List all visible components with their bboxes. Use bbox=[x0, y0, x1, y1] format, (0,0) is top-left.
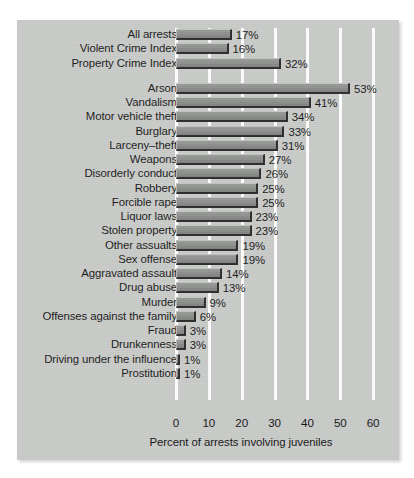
category-label: Vandalism bbox=[126, 96, 177, 110]
bar-value-label: 3% bbox=[190, 325, 206, 337]
bar-value-label: 9% bbox=[210, 297, 226, 309]
bar bbox=[176, 339, 186, 350]
bar-value-label: 41% bbox=[315, 97, 338, 109]
x-tick-label: 50 bbox=[334, 416, 347, 430]
bar-value-label: 32% bbox=[285, 58, 308, 70]
category-label: Liquor laws bbox=[120, 210, 177, 224]
bar-row: Murder9% bbox=[17, 296, 399, 310]
bar-row: Disorderly conduct26% bbox=[17, 167, 399, 181]
bar-row: Aggravated assault14% bbox=[17, 267, 399, 281]
bar bbox=[176, 111, 288, 122]
bar-row: Fraud3% bbox=[17, 324, 399, 338]
category-label: Drunkenness bbox=[111, 338, 177, 352]
bar-value-label: 1% bbox=[184, 368, 200, 380]
bar-value-label: 14% bbox=[226, 268, 249, 280]
bar-row: All arrests17% bbox=[17, 28, 399, 42]
bar-row: Vandalism41% bbox=[17, 96, 399, 110]
bar-value-label: 31% bbox=[282, 140, 305, 152]
x-tick-label: 20 bbox=[235, 416, 248, 430]
bar-value-label: 27% bbox=[269, 154, 292, 166]
bar-row: Stolen property23% bbox=[17, 224, 399, 238]
bar-row: Forcible rape25% bbox=[17, 196, 399, 210]
bar bbox=[176, 197, 258, 208]
category-label: Murder bbox=[142, 296, 177, 310]
bar-row: Burglary33% bbox=[17, 125, 399, 139]
category-label: Prostitution bbox=[121, 367, 177, 381]
category-label: Weapons bbox=[130, 153, 177, 167]
bar-value-label: 19% bbox=[242, 254, 265, 266]
bar bbox=[176, 43, 229, 54]
bar-value-label: 26% bbox=[265, 168, 288, 180]
bar-value-label: 53% bbox=[354, 83, 377, 95]
chart-panel: All arrests17%Violent Crime Index16%Prop… bbox=[17, 20, 399, 460]
bar bbox=[176, 154, 265, 165]
bar bbox=[176, 297, 206, 308]
bar-value-label: 34% bbox=[292, 111, 315, 123]
category-label: Offenses against the family bbox=[43, 310, 177, 324]
x-tick-label: 30 bbox=[268, 416, 281, 430]
bar bbox=[176, 58, 281, 69]
bar-value-label: 19% bbox=[242, 240, 265, 252]
bar-value-label: 25% bbox=[262, 197, 285, 209]
category-label: Other assualts bbox=[105, 239, 177, 253]
category-label: Stolen property bbox=[101, 224, 177, 238]
category-label: Larceny–theft bbox=[109, 139, 177, 153]
x-tick-label: 60 bbox=[367, 416, 380, 430]
category-label: Burglary bbox=[135, 125, 177, 139]
bar bbox=[176, 354, 180, 365]
bar-value-label: 23% bbox=[256, 225, 279, 237]
bar bbox=[176, 183, 258, 194]
bar-value-label: 13% bbox=[223, 282, 246, 294]
bar bbox=[176, 268, 222, 279]
category-label: Motor vehicle theft bbox=[86, 110, 177, 124]
bar-row: Motor vehicle theft34% bbox=[17, 110, 399, 124]
x-axis: 0102030405060 bbox=[17, 416, 399, 432]
bar bbox=[176, 97, 311, 108]
bar bbox=[176, 325, 186, 336]
bar-row: Weapons27% bbox=[17, 153, 399, 167]
x-tick-label: 40 bbox=[301, 416, 314, 430]
bar bbox=[176, 311, 196, 322]
category-label: Arson bbox=[148, 82, 177, 96]
bar bbox=[176, 254, 238, 265]
bar bbox=[176, 282, 219, 293]
bar-row: Sex offense19% bbox=[17, 253, 399, 267]
bar-value-label: 6% bbox=[200, 311, 216, 323]
bar-row: Liquor laws23% bbox=[17, 210, 399, 224]
bar-value-label: 1% bbox=[184, 354, 200, 366]
category-label: Drug abuse bbox=[119, 281, 177, 295]
bar-row: Driving under the influence1% bbox=[17, 353, 399, 367]
bar bbox=[176, 211, 252, 222]
bar bbox=[176, 83, 350, 94]
bar-row: Drug abuse13% bbox=[17, 281, 399, 295]
x-axis-label: Percent of arrests involving juveniles bbox=[17, 436, 399, 448]
bar-value-label: 33% bbox=[288, 126, 311, 138]
bar-row: Offenses against the family6% bbox=[17, 310, 399, 324]
bar bbox=[176, 168, 261, 179]
bar-value-label: 25% bbox=[262, 183, 285, 195]
bar-row: Robbery25% bbox=[17, 182, 399, 196]
category-label: Sex offense bbox=[118, 253, 177, 267]
bar bbox=[176, 140, 278, 151]
bar-value-label: 3% bbox=[190, 339, 206, 351]
category-label: Property Crime Index bbox=[71, 57, 177, 71]
category-label: All arrests bbox=[127, 28, 177, 42]
x-tick-label: 10 bbox=[202, 416, 215, 430]
bar-row: Prostitution1% bbox=[17, 367, 399, 381]
bar-value-label: 16% bbox=[233, 43, 256, 55]
bar-row: Other assualts19% bbox=[17, 239, 399, 253]
bar bbox=[176, 368, 180, 379]
category-label: Aggravated assault bbox=[81, 267, 177, 281]
category-label: Disorderly conduct bbox=[84, 167, 177, 181]
x-tick-label: 0 bbox=[173, 416, 179, 430]
bar bbox=[176, 225, 252, 236]
bar-row: Drunkenness3% bbox=[17, 338, 399, 352]
figure: All arrests17%Violent Crime Index16%Prop… bbox=[0, 0, 414, 478]
category-label: Robbery bbox=[135, 182, 177, 196]
category-label: Fraud bbox=[148, 324, 177, 338]
category-label: Forcible rape bbox=[112, 196, 177, 210]
category-label: Violent Crime Index bbox=[80, 42, 177, 56]
bar-value-label: 23% bbox=[256, 211, 279, 223]
x-axis-label-text: Percent of arrests involving juveniles bbox=[150, 436, 333, 448]
bar bbox=[176, 126, 284, 137]
